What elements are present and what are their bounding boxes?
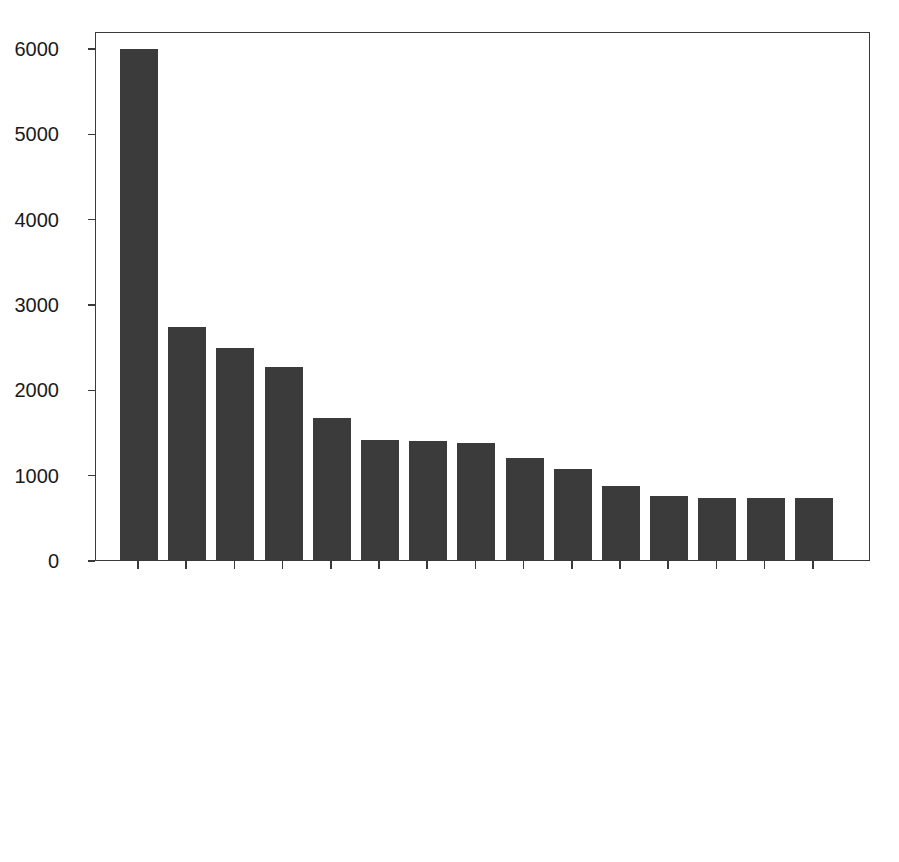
y-tick-mark xyxy=(88,475,95,477)
y-tick-label: 2000 xyxy=(15,380,60,400)
y-tick-label: 6000 xyxy=(15,39,60,59)
x-tick-mark xyxy=(571,561,573,569)
bar xyxy=(216,348,254,560)
plot-area xyxy=(95,32,870,561)
x-tick-mark xyxy=(282,561,284,569)
x-tick-mark xyxy=(185,561,187,569)
bars-layer xyxy=(96,33,869,560)
bar xyxy=(506,458,544,560)
x-tick-mark xyxy=(378,561,380,569)
bar-chart-figure: 0100020003000400050006000 InfiltrationAt… xyxy=(0,0,899,862)
y-tick-mark xyxy=(88,560,95,562)
y-tick-mark xyxy=(88,390,95,392)
x-tick-mark xyxy=(234,561,236,569)
y-tick-label: 0 xyxy=(48,551,59,571)
x-tick-mark xyxy=(523,561,525,569)
x-tick-mark xyxy=(619,561,621,569)
bar xyxy=(409,441,447,560)
bar xyxy=(650,496,688,560)
y-tick-label: 1000 xyxy=(15,466,60,486)
bar xyxy=(313,418,351,560)
y-tick-label: 5000 xyxy=(15,124,60,144)
bar xyxy=(602,486,640,560)
x-tick-mark xyxy=(812,561,814,569)
y-tick-mark xyxy=(88,304,95,306)
x-tick-mark xyxy=(426,561,428,569)
y-tick-mark xyxy=(88,134,95,136)
bar xyxy=(265,367,303,560)
y-tick-mark xyxy=(88,48,95,50)
bar xyxy=(120,49,158,560)
bar xyxy=(698,498,736,560)
bar xyxy=(554,469,592,560)
y-tick-mark xyxy=(88,219,95,221)
x-tick-mark xyxy=(137,561,139,569)
x-tick-mark xyxy=(330,561,332,569)
y-tick-label: 4000 xyxy=(15,210,60,230)
bar xyxy=(168,327,206,560)
x-tick-mark xyxy=(764,561,766,569)
x-tick-mark xyxy=(475,561,477,569)
y-tick-label: 3000 xyxy=(15,295,60,315)
bar xyxy=(361,440,399,560)
bar xyxy=(747,498,785,560)
x-tick-mark xyxy=(667,561,669,569)
bar xyxy=(457,443,495,560)
bar xyxy=(795,498,833,560)
x-tick-mark xyxy=(716,561,718,569)
y-axis: 0100020003000400050006000 xyxy=(0,0,95,862)
